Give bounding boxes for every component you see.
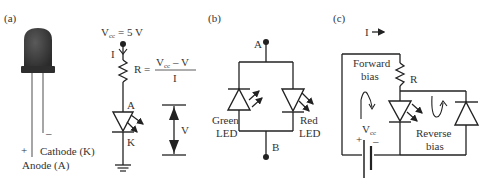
- plus-sign: +: [21, 144, 27, 156]
- vcc-label: Vcc = 5 V: [101, 26, 143, 40]
- light-emission-icon: [131, 115, 143, 124]
- reverse-loop-arrow-icon: [432, 96, 443, 117]
- voltage-label: V: [181, 124, 189, 136]
- diagram-canvas: (a) – Cathode (K) + Anode (A) Vcc = 5 V …: [0, 0, 495, 187]
- panel-b-label: (b): [208, 12, 221, 25]
- resistor-formula: R = Vcc – V I: [134, 56, 196, 84]
- red-led-label-1: Red: [300, 114, 318, 126]
- led-dome: [24, 28, 52, 70]
- panel-a: (a) – Cathode (K) + Anode (A) Vcc = 5 V …: [4, 12, 196, 172]
- cathode-label: Cathode (K): [40, 145, 95, 158]
- resistor-icon: [119, 60, 127, 82]
- resistor-icon: [396, 63, 404, 86]
- formula-denominator: I: [173, 72, 177, 84]
- green-led-diode-icon: [228, 89, 262, 110]
- forward-bias-label-2: bias: [361, 70, 379, 82]
- arrow-up-icon: [169, 107, 179, 120]
- formula-numerator: Vcc – V: [156, 56, 189, 70]
- red-led-label-2: LED: [299, 127, 320, 139]
- anode-label: Anode (A): [22, 159, 70, 172]
- forward-led-diode-icon: [389, 101, 422, 122]
- panel-c-label: (c): [333, 12, 346, 25]
- anode-node-label: A: [127, 99, 135, 111]
- forward-bias-label-1: Forward: [353, 57, 391, 69]
- current-label: I: [365, 26, 369, 38]
- reverse-bias-label-1: Reverse: [416, 127, 452, 139]
- led-rim: [21, 66, 55, 73]
- node-a-label: A: [254, 38, 262, 50]
- node-b-label: B: [272, 141, 279, 153]
- current-label: I: [111, 48, 115, 60]
- green-led-label-1: Green: [212, 114, 239, 126]
- resistor-label: R: [410, 73, 418, 85]
- ground-icon: [115, 165, 131, 171]
- red-led-diode-icon: [282, 89, 313, 112]
- green-led-label-2: LED: [216, 127, 237, 139]
- cathode-node-label: K: [127, 136, 135, 148]
- panel-c: (c) I R +: [333, 12, 478, 178]
- reverse-bias-label-2: bias: [426, 140, 444, 152]
- voltage-indicator: V: [162, 105, 189, 155]
- led-diagram-figure: (a) – Cathode (K) + Anode (A) Vcc = 5 V …: [0, 0, 495, 187]
- arrow-down-icon: [169, 140, 179, 153]
- vcc-label: Vcc: [362, 123, 376, 137]
- led-diode-icon: [113, 112, 133, 131]
- battery-icon: [364, 140, 371, 178]
- reverse-diode-icon: [455, 91, 478, 155]
- panel-a-label: (a): [4, 12, 17, 25]
- led-series-circuit: Vcc = 5 V I A K: [101, 26, 143, 171]
- svg-text:R =: R =: [134, 63, 150, 75]
- node-b-dot: [263, 154, 269, 160]
- minus-sign: –: [45, 127, 52, 139]
